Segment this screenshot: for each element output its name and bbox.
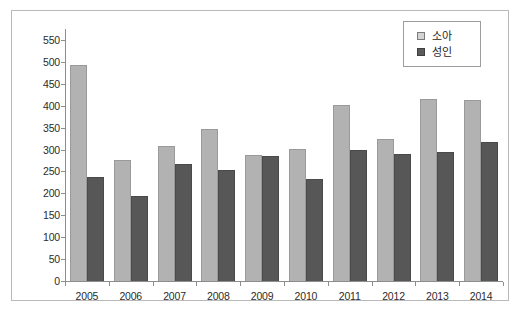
x-axis-tick-label: 2007	[152, 290, 198, 302]
y-axis-tick	[61, 106, 66, 107]
x-axis-tick	[503, 282, 504, 286]
x-axis-tick	[328, 282, 329, 286]
x-axis-tick	[372, 282, 373, 286]
chart-frame: 050100150200250300350400450500550 200520…	[11, 10, 509, 301]
bar[interactable]	[289, 149, 306, 281]
y-axis-tick-label: 150	[16, 210, 60, 220]
x-axis-tick-label: 2010	[283, 290, 329, 302]
y-axis-tick-label: 350	[16, 123, 60, 133]
x-axis-tick-label: 2009	[239, 290, 285, 302]
bar[interactable]	[437, 152, 454, 281]
bar[interactable]	[306, 179, 323, 281]
y-axis-tick-label: 250	[16, 166, 60, 176]
y-axis-tick-label: 100	[16, 232, 60, 242]
bar[interactable]	[158, 146, 175, 281]
legend-label-seongin: 성인	[432, 46, 452, 58]
y-axis-tick-label-wrap: 400	[12, 101, 60, 111]
legend-item-soa[interactable]: 소아	[404, 28, 480, 44]
x-axis-tick-label: 2008	[195, 290, 241, 302]
x-axis-tick-label: 2014	[458, 290, 504, 302]
y-axis-tick	[61, 62, 66, 63]
y-axis-tick-label: 200	[16, 188, 60, 198]
y-axis-tick-label: 400	[16, 101, 60, 111]
bar-group	[333, 29, 367, 281]
bar[interactable]	[70, 65, 87, 281]
y-axis-tick-label-wrap: 200	[12, 188, 60, 198]
x-axis-tick	[415, 282, 416, 286]
x-axis-tick-label: 2005	[64, 290, 110, 302]
y-axis-tick	[61, 128, 66, 129]
bar[interactable]	[481, 142, 498, 281]
y-axis-tick-label-wrap: 100	[12, 232, 60, 242]
x-axis-tick	[109, 282, 110, 286]
y-axis-tick-label: 550	[16, 35, 60, 45]
legend-item-seongin[interactable]: 성인	[404, 44, 480, 60]
y-axis-tick	[61, 171, 66, 172]
y-axis-tick-label-wrap: 300	[12, 145, 60, 155]
x-axis-tick	[284, 282, 285, 286]
bar-group	[245, 29, 279, 281]
legend-swatch-dark-icon	[417, 48, 425, 56]
y-axis-tick-label-wrap: 0	[12, 276, 60, 286]
y-axis-tick-label: 0	[16, 276, 60, 286]
y-axis-tick-label: 450	[16, 79, 60, 89]
bar[interactable]	[333, 105, 350, 281]
bar-group	[158, 29, 192, 281]
chart-legend: 소아 성인	[403, 21, 481, 67]
bar[interactable]	[420, 99, 437, 281]
bar[interactable]	[245, 155, 262, 281]
x-axis-tick	[153, 282, 154, 286]
bar[interactable]	[114, 160, 131, 281]
legend-swatch-light-icon	[417, 32, 425, 40]
x-axis-tick-label: 2012	[371, 290, 417, 302]
x-axis-tick	[240, 282, 241, 286]
y-axis-tick-label-wrap: 550	[12, 35, 60, 45]
bar[interactable]	[218, 170, 235, 281]
bar[interactable]	[262, 156, 279, 281]
bar-group	[289, 29, 323, 281]
bar[interactable]	[131, 196, 148, 281]
y-axis-tick-label-wrap: 500	[12, 57, 60, 67]
y-axis-tick-label: 50	[16, 254, 60, 264]
y-axis-tick	[61, 237, 66, 238]
bar[interactable]	[394, 154, 411, 281]
x-axis-tick-label: 2013	[414, 290, 460, 302]
bar-group	[114, 29, 148, 281]
x-axis-tick	[196, 282, 197, 286]
x-axis-tick	[459, 282, 460, 286]
y-axis-tick-label-wrap: 150	[12, 210, 60, 220]
x-axis-tick-label: 2011	[327, 290, 373, 302]
bar-group	[70, 29, 104, 281]
y-axis-tick	[61, 215, 66, 216]
bar[interactable]	[87, 177, 104, 281]
bar[interactable]	[201, 129, 218, 281]
y-axis-tick-label: 300	[16, 145, 60, 155]
x-axis-tick-label: 2006	[108, 290, 154, 302]
y-axis-tick	[61, 40, 66, 41]
y-axis-tick-label-wrap: 250	[12, 166, 60, 176]
legend-label-soa: 소아	[432, 30, 452, 42]
y-axis-tick	[61, 150, 66, 151]
y-axis-line	[65, 29, 66, 282]
bar[interactable]	[464, 100, 481, 281]
bar[interactable]	[350, 150, 367, 281]
x-axis-tick	[65, 282, 66, 286]
bar[interactable]	[377, 139, 394, 281]
bar[interactable]	[175, 164, 192, 281]
y-axis-tick	[61, 84, 66, 85]
y-axis-tick-label-wrap: 50	[12, 254, 60, 264]
y-axis-tick	[61, 259, 66, 260]
y-axis-tick	[61, 193, 66, 194]
bar-chart-plot-area: 050100150200250300350400450500550 200520…	[12, 11, 510, 302]
y-axis-tick-label: 500	[16, 57, 60, 67]
y-axis-tick-label-wrap: 450	[12, 79, 60, 89]
bar-group	[201, 29, 235, 281]
y-axis-tick-label-wrap: 350	[12, 123, 60, 133]
